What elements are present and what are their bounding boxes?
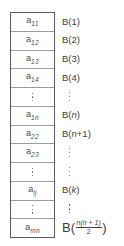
array-cell-amn: amn bbox=[11, 219, 54, 238]
block-label-ellipsis-2 bbox=[62, 143, 124, 162]
array-cell-label: a22 bbox=[26, 129, 39, 140]
array-cell-label: a23 bbox=[26, 147, 39, 158]
vertical-ellipsis-icon bbox=[32, 168, 33, 177]
matrix-element-array: a11 a12 a13 a14 a1n a22 a23 aij bbox=[10, 12, 55, 238]
vertical-ellipsis-icon bbox=[69, 87, 70, 106]
block-label: B(4) bbox=[62, 73, 80, 83]
subscript: 12 bbox=[31, 39, 39, 46]
array-cell-label: a13 bbox=[26, 54, 39, 65]
array-cell-label: a1n bbox=[26, 110, 39, 121]
vertical-ellipsis-icon bbox=[69, 143, 70, 162]
array-cell-label: a11 bbox=[26, 16, 38, 27]
subscript: 23 bbox=[31, 151, 39, 158]
fraction: n(n + 1) 2 bbox=[76, 219, 102, 236]
vertical-ellipsis-icon bbox=[69, 200, 70, 219]
fraction-numerator: n(n + 1) bbox=[76, 219, 102, 227]
array-cell-label: amn bbox=[25, 223, 40, 234]
block-label-ellipsis-3 bbox=[62, 162, 124, 181]
block-label: B(n+1) bbox=[62, 129, 91, 139]
block-label-row-2: B(2) bbox=[62, 31, 124, 50]
array-to-block-mapping-diagram: a11 a12 a13 a14 a1n a22 a23 aij bbox=[0, 0, 124, 246]
block-label-column: B(1) B(2) B(3) B(4) B(n) B(n+1) B(k) bbox=[62, 12, 124, 238]
block-label-row-4: B(4) bbox=[62, 68, 124, 87]
fraction-prefix: B( bbox=[62, 221, 75, 234]
block-label: B(1) bbox=[62, 17, 80, 27]
block-label: B(n) bbox=[62, 110, 80, 120]
block-label: B(2) bbox=[62, 35, 80, 45]
block-label-argument: n bbox=[72, 128, 77, 139]
block-label-ellipsis-4 bbox=[62, 200, 124, 219]
array-cell-a13: a13 bbox=[11, 51, 54, 70]
array-cell-a11: a11 bbox=[11, 13, 54, 32]
array-cell-label: aij bbox=[28, 185, 37, 196]
vertical-ellipsis-icon bbox=[32, 93, 33, 102]
block-label-row-n-plus-1: B(n+1) bbox=[62, 125, 124, 144]
block-label-row-total: B( n(n + 1) 2 ) bbox=[62, 218, 124, 237]
array-cell-a23: a23 bbox=[11, 144, 54, 163]
subscript: ij bbox=[33, 189, 37, 196]
block-label: B(k) bbox=[62, 185, 79, 195]
block-label: B(3) bbox=[62, 54, 80, 64]
block-label-row-k: B(k) bbox=[62, 181, 124, 200]
subscript: 1n bbox=[31, 114, 39, 121]
block-label-argument: k bbox=[72, 184, 77, 195]
array-cell-a14: a14 bbox=[11, 69, 54, 88]
subscript: 14 bbox=[31, 76, 39, 83]
block-label-ellipsis-1 bbox=[62, 87, 124, 106]
block-label-row-3: B(3) bbox=[62, 50, 124, 69]
array-cell-ellipsis-2 bbox=[11, 163, 54, 182]
array-cell-ellipsis-1 bbox=[11, 88, 54, 107]
block-label-row-n: B(n) bbox=[62, 106, 124, 125]
vertical-ellipsis-icon bbox=[32, 205, 33, 214]
subscript: 22 bbox=[31, 133, 39, 140]
subscript: 13 bbox=[31, 58, 39, 65]
subscript: 11 bbox=[31, 20, 38, 27]
array-cell-a1n: a1n bbox=[11, 107, 54, 126]
block-label-row-1: B(1) bbox=[62, 12, 124, 31]
array-cell-label: a12 bbox=[26, 35, 39, 46]
block-label-fraction: B( n(n + 1) 2 ) bbox=[62, 219, 107, 236]
array-cell-label: a14 bbox=[26, 72, 39, 83]
subscript: mn bbox=[30, 227, 40, 234]
array-cell-aij: aij bbox=[11, 182, 54, 201]
array-cell-a12: a12 bbox=[11, 32, 54, 51]
vertical-ellipsis-icon bbox=[69, 162, 70, 181]
block-label-argument: n bbox=[72, 109, 77, 120]
array-cell-ellipsis-3 bbox=[11, 201, 54, 220]
fraction-suffix: ) bbox=[102, 221, 106, 234]
array-cell-a22: a22 bbox=[11, 126, 54, 145]
fraction-denominator: 2 bbox=[86, 228, 92, 236]
